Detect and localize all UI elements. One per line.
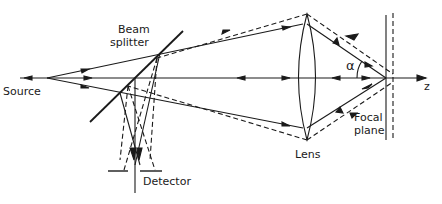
source-label: Source xyxy=(3,86,41,98)
alpha-label: α xyxy=(346,60,355,72)
detector-label: Detector xyxy=(143,176,191,188)
lower-ray xyxy=(47,78,303,128)
z-axis-label: z xyxy=(424,81,430,93)
lens xyxy=(299,14,316,140)
optical-setup-diagram: Source Beam splitter Detector Lens Focal… xyxy=(0,0,442,204)
beam-splitter-label-line1: Beam xyxy=(118,24,150,36)
lens-label: Lens xyxy=(295,149,320,161)
focal-plane-label-line1: Focal xyxy=(354,112,383,124)
focal-plane-label-line2: plane xyxy=(354,125,385,137)
alpha-arc xyxy=(357,61,362,78)
beam-splitter-label-line2: splitter xyxy=(110,37,149,49)
diagram-drawing xyxy=(0,0,442,204)
